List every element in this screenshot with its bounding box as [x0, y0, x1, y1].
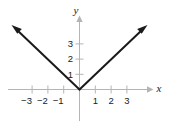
- y-tick-labels-group: 1 2 3: [68, 38, 73, 79]
- x-tick-label-1: 1: [93, 95, 98, 106]
- y-tick-label-3: 3: [68, 38, 73, 49]
- y-tick-label-2: 2: [68, 53, 73, 64]
- x-tick-label-3: 3: [124, 95, 129, 106]
- y-axis-label: y: [73, 4, 79, 16]
- x-tick-label-2: 2: [108, 95, 113, 106]
- x-tick-label--3: −3: [21, 95, 32, 106]
- curve-right-branch: [80, 30, 143, 90]
- coordinate-plane-svg: y x −3 −2 −1 1 2 3 1 2 3: [0, 0, 169, 125]
- y-tick-label-1: 1: [68, 69, 73, 80]
- x-tick-label--1: −1: [53, 95, 64, 106]
- absolute-value-graph-figure: y x −3 −2 −1 1 2 3 1 2 3: [0, 0, 169, 125]
- y-axis-arrow-icon: [76, 16, 82, 23]
- x-tick-labels-group: −3 −2 −1 1 2 3: [21, 95, 129, 106]
- x-tick-label--2: −2: [37, 95, 48, 106]
- x-axis-label: x: [156, 82, 162, 94]
- x-axis-arrow-icon: [147, 86, 154, 92]
